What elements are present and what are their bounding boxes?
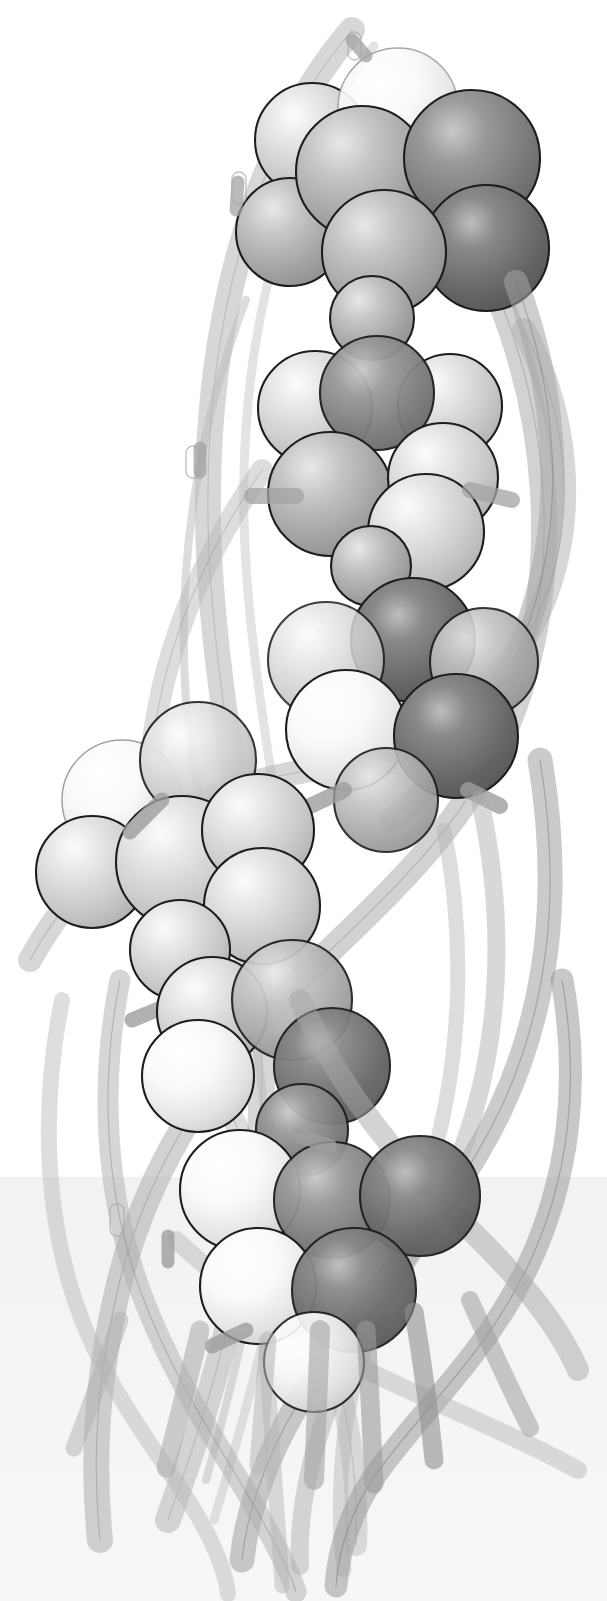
- side-chain-stub: [352, 40, 366, 56]
- ribbon-fg-7: [258, 1340, 268, 1466]
- side-chain-stub: [300, 1136, 330, 1146]
- ribbon-fg-1: [314, 1330, 320, 1480]
- atom-sphere: [334, 748, 438, 852]
- molecule-canvas: [0, 0, 607, 1601]
- side-chain-stub: [236, 182, 238, 210]
- ribbon-fg-2: [366, 1330, 374, 1484]
- molecule-figure: Molecular structure — space-filling mode…: [0, 0, 607, 1601]
- atom-sphere: [142, 1020, 254, 1132]
- side-chain-stub: [470, 490, 512, 500]
- atom-cluster-middle: [258, 336, 502, 606]
